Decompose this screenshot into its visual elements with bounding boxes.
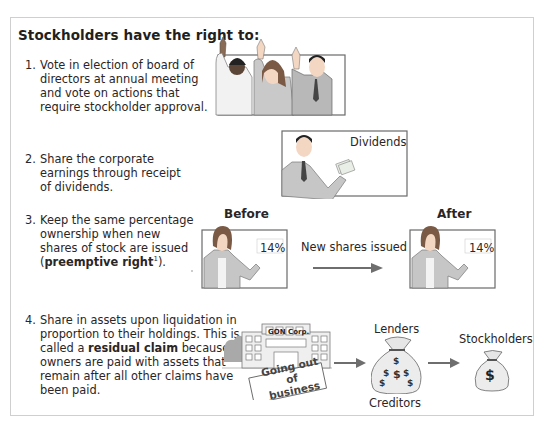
item-number: 4. [25, 313, 36, 327]
before-ownership-illustration [200, 222, 290, 290]
right-item-2: 2. Share the corporate earnings through … [25, 152, 205, 197]
new-shares-issued-label: New shares issued [301, 240, 407, 254]
residual-claim-term: residual claim [88, 341, 178, 355]
arrow-right-icon [334, 358, 366, 368]
item-number: 1. [25, 58, 36, 72]
item-line: Share the corporate [40, 152, 181, 166]
arrow-right-icon [428, 358, 460, 368]
item-line: Vote in election of board of [40, 58, 208, 72]
item-line: proportion to their holdings. This is [40, 327, 240, 341]
item-line-with-term: (preemptive right1). [40, 255, 194, 269]
item-line: require stockholder approval. [40, 100, 208, 114]
item-number: 3. [25, 213, 36, 227]
item-line: and vote on actions that [40, 86, 208, 100]
svg-text:$: $ [379, 378, 385, 388]
item-line: been paid. [40, 383, 240, 397]
item-line: Keep the same percentage [40, 213, 194, 227]
svg-text:$: $ [383, 368, 389, 378]
decorative-dot [191, 270, 193, 272]
stockholders-label: Stockholders [459, 332, 533, 346]
item-line: Share in assets upon liquidation in [40, 313, 240, 327]
item-line: shares of stock are issued [40, 241, 194, 255]
before-label: Before [224, 207, 269, 221]
item-line: of dividends. [40, 180, 181, 194]
right-item-4: 4. Share in assets upon liquidation in p… [25, 313, 235, 403]
svg-text:$: $ [407, 378, 413, 388]
large-money-bag-icon: $$$ $$$ [371, 336, 423, 394]
dollar-sign: $ [485, 367, 495, 383]
after-label: After [437, 207, 471, 221]
item-number: 2. [25, 152, 36, 166]
item-line: owners are paid with assets that [40, 355, 240, 369]
right-item-1: 1. Vote in election of board of director… [25, 58, 215, 118]
item-line: ownership when new [40, 227, 194, 241]
arrow-right-icon [313, 262, 385, 274]
creditors-label: Creditors [369, 396, 421, 410]
voting-people-illustration [210, 35, 350, 117]
item-line: remain after all other claims have [40, 369, 240, 383]
lenders-label: Lenders [374, 322, 419, 336]
dividends-label: Dividends [350, 135, 406, 149]
item-line: earnings through receipt [40, 166, 181, 180]
building-sign: GON Corp. [268, 328, 309, 336]
item-line: directors at annual meeting [40, 72, 208, 86]
after-ownership-illustration [408, 222, 498, 290]
right-item-3: 3. Keep the same percentage ownership wh… [25, 213, 200, 273]
svg-text:$: $ [403, 368, 409, 378]
item-line-with-term: called a residual claim because [40, 341, 240, 355]
svg-text:$: $ [393, 356, 399, 366]
preemptive-right-term: preemptive right [44, 255, 153, 269]
svg-text:$: $ [393, 368, 401, 381]
before-percent: 14% [260, 241, 285, 255]
after-percent: 14% [469, 241, 494, 255]
